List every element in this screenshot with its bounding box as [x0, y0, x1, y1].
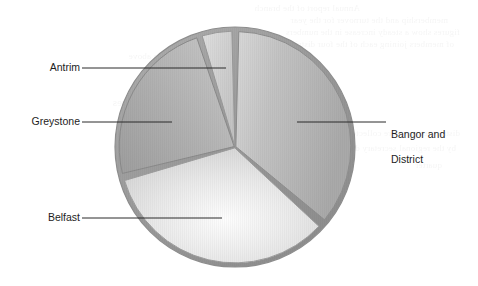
slice-label-bangor: Bangor and District — [391, 115, 475, 178]
scan-texture — [116, 28, 354, 266]
slice-label-greystone: Greystone — [8, 115, 80, 128]
slice-label-antrim: Antrim — [18, 61, 80, 74]
slice-label-bangor-line2: District — [391, 153, 475, 166]
slice-label-bangor-line1: Bangor and — [391, 128, 475, 141]
chart-page: Annual report of the branchmembership an… — [0, 0, 478, 286]
slice-label-belfast: Belfast — [18, 211, 80, 224]
